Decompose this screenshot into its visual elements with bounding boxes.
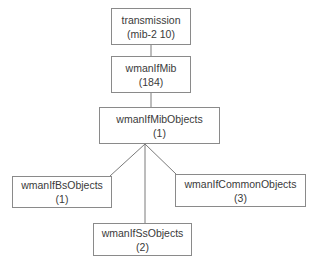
edge-mibobjects-to-commonobjects <box>145 144 176 174</box>
node-oid: (1) <box>56 192 69 206</box>
node-oid: (3) <box>234 191 247 205</box>
node-label: wmanIfBsObjects <box>21 178 103 192</box>
node-label: transmission <box>122 13 181 27</box>
mib-tree-diagram: transmission (mib-2 10) wmanIfMib (184) … <box>0 0 315 264</box>
node-wmanifmib: wmanIfMib (184) <box>111 56 191 93</box>
node-oid: (184) <box>139 75 164 89</box>
node-oid: (2) <box>136 240 149 254</box>
node-label: wmanIfSsObjects <box>102 226 184 240</box>
node-transmission: transmission (mib-2 10) <box>111 8 191 45</box>
node-wmanifcommonobjects: wmanIfCommonObjects (3) <box>175 174 306 207</box>
node-label: wmanIfMib <box>126 61 177 75</box>
node-label: wmanIfCommonObjects <box>184 177 296 191</box>
node-wmanifssobjects: wmanIfSsObjects (2) <box>93 223 192 256</box>
node-oid: (mib-2 10) <box>127 27 175 41</box>
node-label: wmanIfMibObjects <box>116 112 202 126</box>
node-oid: (1) <box>153 126 166 140</box>
edge-mibobjects-to-bsobjects <box>110 144 145 176</box>
node-wmanifmibobjects: wmanIfMibObjects (1) <box>99 107 220 144</box>
node-wmanifbsobjects: wmanIfBsObjects (1) <box>12 176 112 208</box>
